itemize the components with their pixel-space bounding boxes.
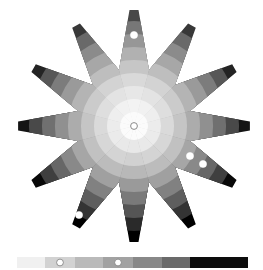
scale-bar-marker-icon (57, 259, 64, 266)
right-arm-marker-1-icon (186, 152, 193, 159)
scale-bar-segment-6 (190, 257, 248, 268)
scale-bar-segment-2 (75, 257, 103, 268)
scale-bar-segment-5 (162, 257, 190, 268)
scale-bar-segment-0 (17, 257, 45, 268)
right-arm-marker-2-icon (199, 160, 206, 167)
center-marker-icon (131, 123, 138, 130)
scale-bar-marker-icon (115, 259, 122, 266)
gray-scale-bar (17, 257, 248, 268)
value-wheel-diagram (0, 0, 263, 270)
top-arm-marker-icon (130, 31, 137, 38)
bottom-left-arm-marker-icon (75, 211, 82, 218)
scale-bar-segment-4 (133, 257, 162, 268)
